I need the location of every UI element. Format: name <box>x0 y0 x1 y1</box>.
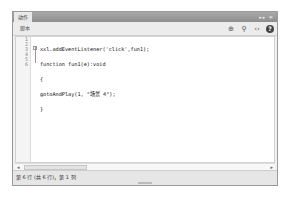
toolbar-icons: ⊕ ⚲ ‹› ? <box>227 23 274 34</box>
line-number: 6 <box>16 62 30 67</box>
code-fold-line <box>35 47 36 63</box>
resize-grip[interactable] <box>138 182 152 184</box>
code-line: gotoAndPlay(1, "场景 4"); <box>40 92 149 97</box>
code-snippet-icon[interactable]: ‹› <box>253 25 261 33</box>
tab-script[interactable]: 脚本 <box>20 24 30 33</box>
status-bar: 第 6 行 (共 6 行)，第 1 列 <box>13 170 277 185</box>
line-number-gutter: 1 2 3 4 5 6 <box>16 37 31 162</box>
code-line: function fun1(e):void <box>40 62 149 67</box>
code-line: { <box>40 77 149 82</box>
actions-panel: 动作 ▸▸ ≡ 脚本 ⊕ ⚲ ‹› ? 1 2 3 4 5 6 xxl.addE… <box>12 11 278 186</box>
panel-titlebar: 动作 ▸▸ ≡ <box>13 12 277 22</box>
code-line: xxl.addEventListener('click',fun1); <box>40 47 149 52</box>
target-icon[interactable]: ⊕ <box>227 25 235 33</box>
code-editor[interactable]: 1 2 3 4 5 6 xxl.addEventListener('click'… <box>15 36 275 163</box>
panel-title-tab[interactable]: 动作 <box>14 12 32 22</box>
panel-window-controls[interactable]: ▸▸ ≡ <box>259 13 274 21</box>
code-line: } <box>40 107 149 112</box>
code-content[interactable]: xxl.addEventListener('click',fun1); func… <box>40 37 149 132</box>
help-icon[interactable]: ? <box>266 25 274 33</box>
search-icon[interactable]: ⚲ <box>240 25 248 33</box>
cursor-position-status: 第 6 行 (共 6 行)，第 1 列 <box>16 173 76 181</box>
actions-toolbar: 脚本 ⊕ ⚲ ‹› ? <box>13 22 277 36</box>
